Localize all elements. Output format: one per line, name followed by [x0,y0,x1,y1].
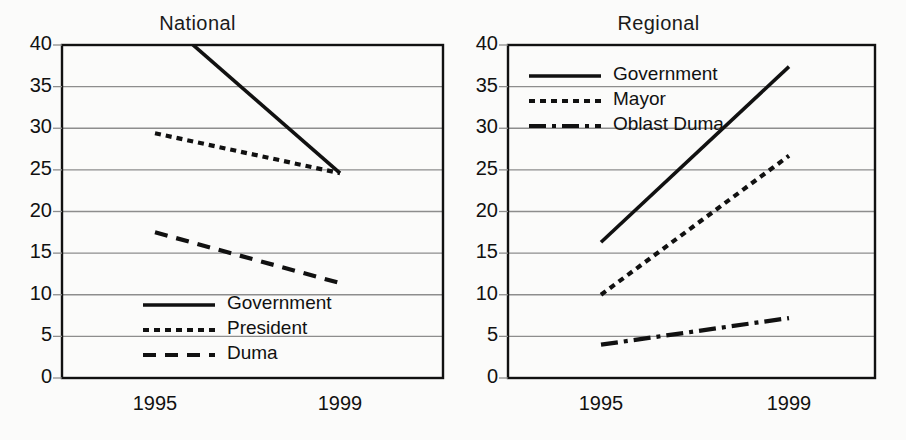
chart-page: National 051015202530354019951999Governm… [0,0,906,440]
chart-panel-national: National 051015202530354019951999Governm… [0,0,455,440]
series-line [155,133,340,173]
series-line [601,318,789,345]
y-axis-tick-label: 20 [462,199,498,222]
series-line [155,12,340,174]
x-axis-tick-label: 1999 [305,392,375,415]
y-axis-tick-label: 15 [16,240,52,263]
series-line [601,156,789,295]
x-axis-tick-label: 1999 [754,392,824,415]
y-axis-tick-label: 5 [16,323,52,346]
y-axis-tick-label: 40 [16,32,52,55]
y-axis-tick-label: 0 [462,365,498,388]
chart-canvas-national [0,0,455,440]
legend-label: Government [227,292,332,314]
x-axis-tick-label: 1995 [566,392,636,415]
legend-label: President [227,317,307,339]
y-axis-tick-label: 30 [16,115,52,138]
x-axis-tick-label: 1995 [120,392,190,415]
y-axis-tick-label: 5 [462,323,498,346]
y-axis-tick-label: 15 [462,240,498,263]
y-axis-tick-label: 25 [462,157,498,180]
y-axis-tick-label: 20 [16,199,52,222]
y-axis-tick-label: 35 [16,74,52,97]
series-line [155,232,340,283]
chart-panel-regional: Regional 051015202530354019951999Governm… [451,0,906,440]
y-axis-tick-label: 10 [462,282,498,305]
y-axis-tick-label: 25 [16,157,52,180]
legend-label: Duma [227,342,278,364]
y-axis-tick-label: 0 [16,365,52,388]
y-axis-tick-label: 10 [16,282,52,305]
legend-label: Oblast Duma [613,113,724,135]
legend-label: Mayor [613,88,666,110]
legend-label: Government [613,63,718,85]
y-axis-tick-label: 35 [462,74,498,97]
y-axis-tick-label: 40 [462,32,498,55]
y-axis-tick-label: 30 [462,115,498,138]
